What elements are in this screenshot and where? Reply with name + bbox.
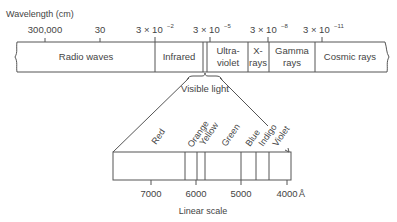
svg-text:violet: violet xyxy=(217,57,240,68)
tick-label-300000: 300,000 xyxy=(28,24,62,35)
tick-label-3e-2: 3 × 10 −2 xyxy=(136,23,175,35)
band-ultraviolet: Ultra- violet xyxy=(216,45,239,68)
band-labels: Radio waves Infrared Ultra- violet X- ra… xyxy=(59,45,377,68)
tick-4000: 4000 xyxy=(276,188,297,199)
band-gamma-rays: Gamma rays xyxy=(275,45,310,68)
svg-text:3 × 10: 3 × 10 xyxy=(136,24,163,35)
color-red: Red xyxy=(149,127,167,146)
svg-text:rays: rays xyxy=(249,57,267,68)
electromagnetic-spectrum-diagram: Wavelength (cm) 300,000 30 3 × 10 −2 3 ×… xyxy=(0,0,397,222)
visible-light-bracket xyxy=(187,73,222,80)
axis-title: Wavelength (cm) xyxy=(6,9,74,19)
svg-text:−8: −8 xyxy=(281,23,289,29)
angstrom-unit: Å xyxy=(299,188,306,199)
band-x-rays: X- rays xyxy=(249,45,267,68)
band-cosmic-rays: Cosmic rays xyxy=(324,51,377,62)
visible-spectrum-band xyxy=(113,152,291,185)
svg-text:−2: −2 xyxy=(167,23,175,29)
svg-text:Ultra-: Ultra- xyxy=(216,45,239,56)
tick-label-3e-5: 3 × 10 −5 xyxy=(193,23,232,35)
svg-text:rays: rays xyxy=(283,57,301,68)
tick-6000: 6000 xyxy=(185,188,206,199)
color-green: Green xyxy=(219,122,242,148)
band-radio-waves: Radio waves xyxy=(59,51,114,62)
tick-label-3e-11: 3 × 10 −11 xyxy=(303,23,344,35)
tick-7000: 7000 xyxy=(140,188,161,199)
svg-text:−5: −5 xyxy=(224,23,232,29)
svg-text:X-: X- xyxy=(253,45,263,56)
bottom-tick-labels: 7000 6000 5000 4000 Å xyxy=(140,188,305,199)
color-labels: Red Orange Yellow Green Blue Indigo Viol… xyxy=(149,119,291,149)
tick-label-3e-8: 3 × 10 −8 xyxy=(250,23,289,35)
band-infrared: Infrared xyxy=(163,51,196,62)
tick-label-30: 30 xyxy=(95,24,106,35)
linear-scale-caption: Linear scale xyxy=(179,206,228,216)
svg-text:3 × 10: 3 × 10 xyxy=(250,24,277,35)
svg-text:Gamma: Gamma xyxy=(275,45,310,56)
svg-text:−11: −11 xyxy=(334,23,344,29)
visible-light-label: Visible light xyxy=(181,83,229,94)
tick-5000: 5000 xyxy=(230,188,251,199)
svg-text:3 × 10: 3 × 10 xyxy=(303,24,330,35)
svg-text:3 × 10: 3 × 10 xyxy=(193,24,220,35)
top-tick-labels: 300,000 30 3 × 10 −2 3 × 10 −5 3 × 10 −8… xyxy=(28,23,345,35)
